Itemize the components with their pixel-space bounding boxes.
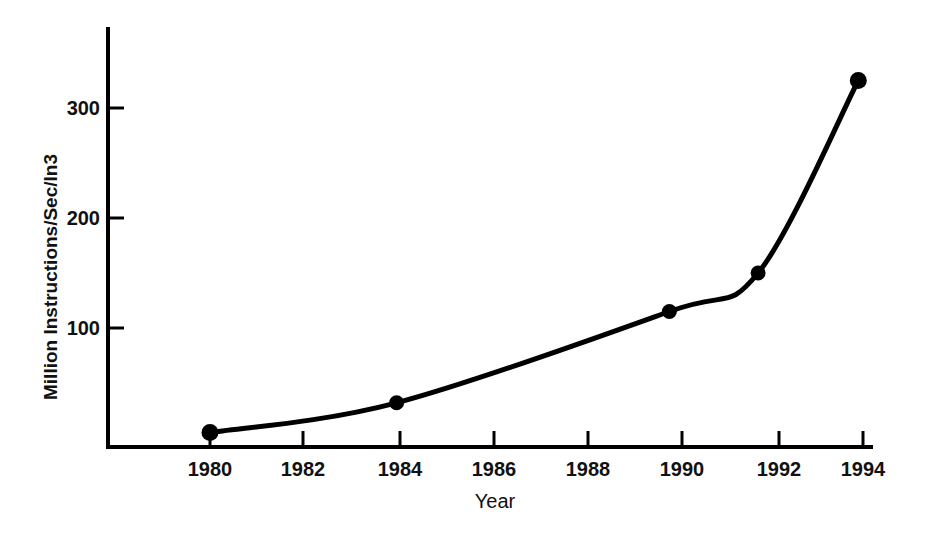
x-tick-label-1990: 1990 <box>660 458 705 481</box>
x-tick-label-1988: 1988 <box>566 458 611 481</box>
x-axis-title: Year <box>475 490 515 513</box>
y-tick-label-300: 300 <box>46 97 100 120</box>
y-axis-ticks <box>108 108 124 328</box>
x-axis-ticks <box>210 431 863 447</box>
data-point-1990 <box>662 304 677 319</box>
data-point-1980 <box>202 424 219 441</box>
data-point-1994 <box>850 72 867 89</box>
x-tick-label-1994: 1994 <box>841 458 886 481</box>
y-axis-title: Million Instructions/Sec/In3 <box>40 154 62 400</box>
data-point-1984 <box>389 395 404 410</box>
data-point-1992 <box>751 266 766 281</box>
data-series-curve <box>210 81 858 433</box>
x-tick-label-1986: 1986 <box>472 458 517 481</box>
x-tick-label-1980: 1980 <box>188 458 233 481</box>
y-axis-title-exponent: 3 <box>40 154 61 165</box>
y-axis-title-text: Million Instructions/Sec/In <box>40 165 61 400</box>
chart-figure: 300 200 100 1980 1982 1984 1986 1988 199… <box>0 0 932 540</box>
x-tick-label-1982: 1982 <box>281 458 326 481</box>
x-tick-label-1992: 1992 <box>757 458 802 481</box>
x-tick-label-1984: 1984 <box>378 458 423 481</box>
